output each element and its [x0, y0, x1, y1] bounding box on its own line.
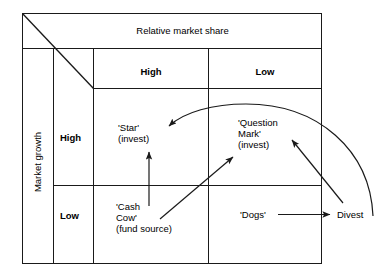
cell-question-mark-name-line2: Mark'	[238, 128, 261, 140]
y-axis-title: Market growth	[32, 102, 44, 222]
bcg-matrix-diagram: Relative market share High Low Market gr…	[0, 0, 391, 279]
arrow-divest-to-questionmark	[292, 140, 343, 203]
cell-star-note: (invest)	[118, 133, 149, 145]
column-header-high: High	[98, 66, 204, 78]
row-header-high: High	[60, 132, 81, 144]
cell-question-mark-name-line1: 'Question	[238, 117, 278, 129]
cell-star-name: 'Star'	[118, 122, 139, 134]
cell-cash-cow-name-line2: Cow'	[116, 212, 137, 224]
x-axis-title: Relative market share	[110, 25, 255, 37]
row-header-low: Low	[60, 210, 79, 222]
cell-dogs-name: 'Dogs'	[240, 209, 266, 221]
cell-cash-cow-note: (fund source)	[116, 223, 172, 235]
arrow-cashcow-to-questionmark	[160, 157, 233, 219]
cell-question-mark-note: (invest)	[238, 139, 269, 151]
matrix-line-art	[0, 0, 391, 279]
cell-cash-cow-name-line1: 'Cash	[116, 201, 140, 213]
corner-diagonal-line	[23, 14, 94, 89]
outcome-divest-label: Divest	[337, 209, 363, 221]
column-header-low: Low	[213, 66, 317, 78]
